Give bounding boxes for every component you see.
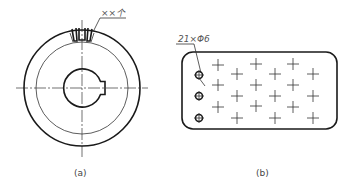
leader-line-b — [176, 44, 201, 73]
hole-centermarks — [212, 58, 319, 124]
drawn-holes — [194, 70, 204, 123]
annotation-b: 21×Φ6 — [178, 34, 210, 44]
caption-a: (a) — [74, 168, 87, 178]
plate-outline — [182, 52, 337, 129]
technical-drawing: ××个 (a) 21×Φ6 — [0, 0, 351, 190]
panel-b-plate: 21×Φ6 (b) — [176, 34, 337, 178]
caption-b: (b) — [256, 168, 269, 178]
leader-line-a — [93, 18, 126, 32]
annotation-a: ××个 — [101, 8, 126, 18]
panel-a-disc: ××个 (a) — [16, 8, 148, 178]
